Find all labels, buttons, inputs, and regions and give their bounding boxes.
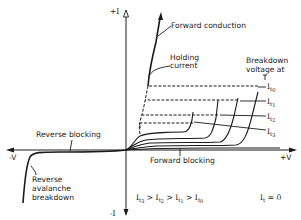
label-it2: It2: [267, 112, 275, 123]
label-it1: It1: [267, 97, 275, 108]
reverse-avalanche-leader: [31, 166, 36, 175]
conduction-arrow-icon: [158, 12, 163, 20]
x-negative-label: -V: [9, 153, 17, 162]
annotations: Forward conduction Holding current Break…: [31, 21, 289, 204]
y-negative-arrow-icon: [124, 209, 129, 216]
curve-it1: [126, 98, 238, 150]
conduction-curve: [148, 18, 160, 86]
reverse-blocking-leader: [70, 140, 72, 151]
label-it0: It0: [267, 82, 275, 93]
reverse-avalanche-label-1: Reverse: [32, 175, 63, 184]
breakdown-label-2: voltage at: [246, 65, 284, 74]
gate-current-relation: It3 > It2 > It1 > It0: [136, 193, 203, 204]
x-negative-arrow-icon: [6, 148, 14, 153]
forward-conduction-label: Forward conduction: [171, 21, 246, 30]
breakdown-label-1: Breakdown: [246, 56, 289, 65]
forward-conduction-leader: [158, 26, 171, 36]
label-it3: It3: [267, 127, 275, 138]
y-positive-label: +I: [110, 7, 119, 16]
reverse-avalanche-label-3: breakdown: [32, 193, 74, 202]
x-positive-label: +V: [280, 153, 292, 162]
thyristor-vi-diagram: +I -I +V -V Forward conduction: [0, 0, 301, 220]
reverse-blocking-label: Reverse blocking: [36, 130, 101, 139]
reverse-avalanche-label-2: avalanche: [32, 184, 71, 193]
holding-current-label-2: current: [170, 61, 197, 70]
x-positive-arrow-icon: [289, 148, 297, 153]
dash-vertical-return: [139, 86, 148, 134]
leader-it2: [220, 115, 266, 116]
holding-current-leader: [149, 66, 170, 76]
y-positive-arrow-icon: [124, 10, 129, 17]
dash-it3: [140, 123, 193, 130]
forward-blocking-label: Forward blocking: [150, 156, 215, 165]
it-zero-label: It = 0: [260, 193, 281, 203]
y-negative-label: -I: [110, 209, 116, 218]
